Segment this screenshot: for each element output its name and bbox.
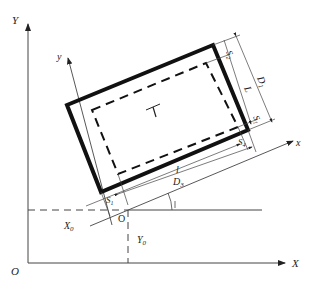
y-offset-label: Y0 [137, 234, 147, 247]
global-y-label: Y [12, 14, 20, 26]
dim-s1-left-label: S1 [106, 195, 114, 206]
local-origin-label: O [118, 213, 125, 224]
rotation-angle-arc [168, 193, 172, 210]
x-offset-label: X0 [63, 220, 74, 233]
coordinate-diagram: Y X O X0 Y0 O x y S2 L S1 D1 [0, 0, 314, 288]
inner-machining-boundary [92, 63, 238, 174]
center-mark [146, 104, 160, 117]
dim-l-label: L [242, 84, 255, 95]
global-origin-label: O [11, 265, 19, 277]
dim-l-small-label: l [176, 164, 179, 175]
outer-workpiece-boundary [67, 45, 248, 192]
local-x-label: x [295, 137, 301, 148]
dim-s2-label: S2 [223, 49, 236, 60]
dim-d3-label: D3 [172, 176, 184, 189]
local-y-label: y [56, 51, 62, 62]
global-x-label: X [291, 257, 300, 269]
dim-s1-right-label: S1 [250, 114, 263, 125]
dim-s4-label: S4 [238, 137, 246, 148]
